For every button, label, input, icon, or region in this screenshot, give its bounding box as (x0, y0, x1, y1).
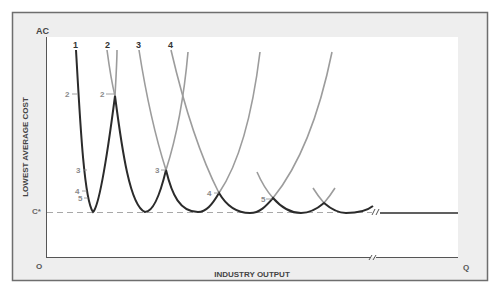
marker-c5-5: 5 (261, 195, 266, 204)
curve-label-4: 4 (168, 40, 173, 50)
marker-c1-2: 2 (65, 90, 70, 99)
marker-c1-5: 5 (78, 194, 83, 203)
marker-c4-4: 4 (207, 189, 212, 198)
origin-label: O (36, 262, 42, 271)
curve-label-3: 3 (136, 40, 141, 50)
marker-c3-3: 3 (155, 166, 160, 175)
marker-c1-3: 3 (76, 166, 81, 175)
y-axis-ac-label: AC (36, 26, 49, 36)
average-cost-chart: AC 1 2 3 4 2 2 3 3 4 5 4 5 C* O Q INDUST… (0, 0, 492, 299)
y-axis-title: LOWEST AVERAGE COST (21, 97, 30, 197)
curve-label-1: 1 (73, 40, 78, 50)
marker-c2-2: 2 (100, 90, 105, 99)
curve-label-2: 2 (105, 40, 110, 50)
q-axis-label: Q (463, 263, 469, 272)
x-axis-title: INDUSTRY OUTPUT (214, 270, 290, 279)
c-star-label: C* (32, 207, 42, 216)
